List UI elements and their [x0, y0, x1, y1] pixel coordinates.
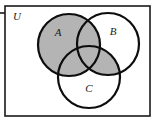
- set-label-c: C: [85, 82, 93, 94]
- venn-diagram-figure: U A B C: [0, 0, 157, 124]
- venn-diagram-canvas: U A B C: [0, 0, 157, 124]
- universal-set-label: U: [13, 10, 22, 22]
- set-label-a: A: [54, 26, 62, 38]
- set-label-b: B: [110, 25, 117, 37]
